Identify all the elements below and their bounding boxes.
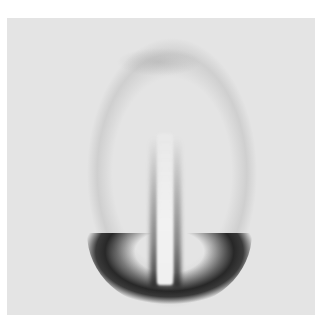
beamstop-shadow <box>157 133 173 285</box>
diffraction-plate <box>7 18 315 315</box>
right-meridional-streak <box>173 138 181 288</box>
upper-faint-arc <box>99 42 219 82</box>
